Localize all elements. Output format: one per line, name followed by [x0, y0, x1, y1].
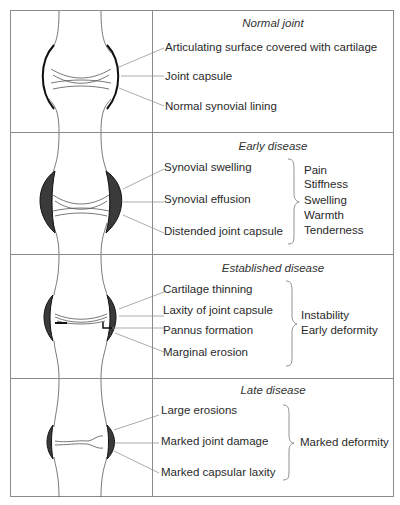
panel-normal-joint: Normal joint Articulating surface covere…: [11, 11, 393, 132]
symptom-pain: Pain: [304, 164, 327, 178]
panel-established-disease: Established disease Cartilage thinning L…: [11, 254, 393, 379]
label-normal-synovial-lining: Normal synovial lining: [165, 100, 277, 112]
label-synovial-swelling: Synovial swelling: [164, 161, 252, 173]
panel-late-disease: Late disease Large erosions Marked joint…: [11, 378, 393, 497]
label-marked-joint-damage: Marked joint damage: [161, 435, 268, 447]
symptom-marked-deformity: Marked deformity: [300, 436, 389, 450]
symptom-early-deformity: Early deformity: [301, 324, 378, 338]
column-divider: [152, 11, 153, 132]
early-disease-joint-illustration-icon: [11, 133, 152, 255]
established-disease-joint-illustration-icon: [11, 255, 152, 379]
label-pannus-formation: Pannus formation: [163, 324, 253, 336]
column-divider: [152, 379, 153, 497]
symptom-swelling: Swelling: [304, 194, 347, 208]
label-articulating-surface: Articulating surface covered with cartil…: [165, 41, 377, 53]
curly-brace-icon: [286, 281, 297, 366]
panel-title: Early disease: [153, 140, 393, 152]
late-disease-joint-illustration-icon: [11, 379, 152, 497]
label-joint-capsule: Joint capsule: [165, 70, 232, 82]
label-distended-joint-capsule: Distended joint capsule: [164, 225, 283, 237]
normal-joint-illustration-icon: [11, 11, 152, 132]
panel-title: Normal joint: [153, 17, 393, 29]
symptom-warmth: Warmth: [304, 209, 344, 223]
symptom-stiffness: Stiffness: [304, 178, 348, 192]
panel-title: Late disease: [153, 384, 393, 396]
label-cartilage-thinning: Cartilage thinning: [163, 283, 253, 295]
curly-brace-icon: [283, 405, 294, 480]
panel-title: Established disease: [153, 262, 393, 274]
symptom-tenderness: Tenderness: [304, 224, 363, 238]
label-synovial-effusion: Synovial effusion: [164, 193, 251, 205]
label-laxity-of-joint-capsule: Laxity of joint capsule: [163, 304, 273, 316]
curly-brace-icon: [288, 159, 299, 244]
symptom-instability: Instability: [301, 309, 349, 323]
label-large-erosions: Large erosions: [161, 404, 237, 416]
label-marked-capsular-laxity: Marked capsular laxity: [161, 466, 275, 478]
panel-early-disease: Early disease Synovial swelling Synovial…: [11, 132, 393, 255]
diagram-frame: Normal joint Articulating surface covere…: [10, 10, 394, 497]
label-marginal-erosion: Marginal erosion: [163, 346, 248, 358]
